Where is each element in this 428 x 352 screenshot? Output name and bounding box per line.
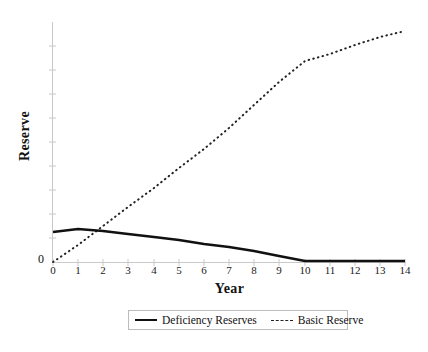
x-tick-label-5: 5 bbox=[176, 264, 182, 276]
x-tick-label-12: 12 bbox=[350, 264, 361, 276]
legend-label-basic-reserve: Basic Reserve bbox=[298, 314, 363, 326]
x-tick-label-3: 3 bbox=[125, 264, 131, 276]
y-axis-label-container: Reserve bbox=[10, 0, 40, 312]
legend-entry-basic-reserve[interactable]: Basic Reserve bbox=[271, 311, 363, 329]
x-axis-label: Year bbox=[53, 281, 406, 297]
y-axis-label: Reserve bbox=[10, 0, 40, 312]
x-tick-label-4: 4 bbox=[151, 264, 157, 276]
legend-label-deficiency-reserves: Deficiency Reserves bbox=[162, 314, 257, 326]
x-tick-label-13: 13 bbox=[375, 264, 386, 276]
x-tick-label-11: 11 bbox=[325, 264, 336, 276]
chart-legend: Deficiency Reserves Basic Reserve bbox=[128, 310, 348, 330]
x-tick-label-7: 7 bbox=[226, 264, 232, 276]
chart-figure: Reserve 0 0 1 2 3 4 5 6 7 8 9 10 11 12 1… bbox=[0, 0, 428, 352]
x-tick-label-8: 8 bbox=[251, 264, 257, 276]
y-axis-origin-label: 0 bbox=[38, 252, 44, 267]
x-tick-label-9: 9 bbox=[276, 264, 282, 276]
x-tick-label-6: 6 bbox=[201, 264, 207, 276]
legend-swatch-solid-line-icon bbox=[135, 319, 157, 321]
legend-swatch-dotted-line-icon bbox=[271, 320, 293, 321]
x-tick-label-2: 2 bbox=[100, 264, 106, 276]
plot-area bbox=[0, 0, 428, 352]
x-tick-label-0: 0 bbox=[50, 264, 56, 276]
series-line-basic-reserve bbox=[53, 31, 405, 262]
x-tick-label-10: 10 bbox=[300, 264, 311, 276]
x-tick-label-14: 14 bbox=[400, 264, 411, 276]
legend-entry-deficiency-reserves[interactable]: Deficiency Reserves bbox=[135, 311, 257, 329]
x-tick-label-1: 1 bbox=[75, 264, 81, 276]
series-line-deficiency-reserves bbox=[53, 229, 405, 261]
